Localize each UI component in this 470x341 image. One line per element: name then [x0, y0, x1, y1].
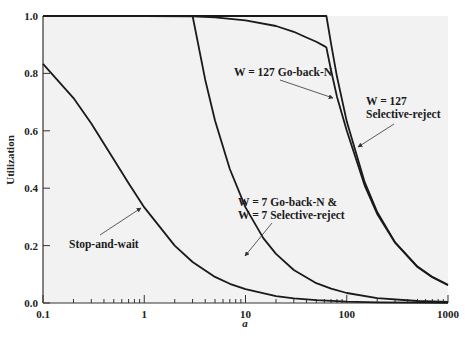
y-axis-title: Utilization	[4, 135, 16, 185]
y-tick-label: 1.0	[24, 10, 38, 22]
annotation-w7-line2: W = 7 Selective-reject	[238, 209, 345, 222]
y-tick-label: 0.6	[24, 125, 38, 137]
annotation-w7-line1: W = 7 Go-back-N &	[238, 196, 337, 208]
x-tick-label: 1000	[437, 308, 460, 320]
y-tick-label: 0.8	[24, 67, 38, 79]
annotation-w127-sr-line1: W = 127	[366, 95, 407, 107]
x-tick-label: 0.1	[36, 308, 50, 320]
utilization-chart: 0.00.20.40.60.81.00.11101001000 Utilizat…	[0, 0, 470, 341]
x-tick-label: 1	[142, 308, 148, 320]
y-tick-label: 0.2	[24, 240, 38, 252]
annotation-stop-and-wait: Stop-and-wait	[69, 238, 139, 251]
x-tick-label: 100	[339, 308, 356, 320]
annotation-w127-gbn: W = 127 Go-back-N	[234, 66, 333, 78]
y-tick-label: 0.4	[24, 182, 38, 194]
annotation-w127-sr-line2: Selective-reject	[366, 108, 441, 121]
plot-area	[43, 16, 448, 303]
x-axis-title: a	[242, 317, 248, 329]
